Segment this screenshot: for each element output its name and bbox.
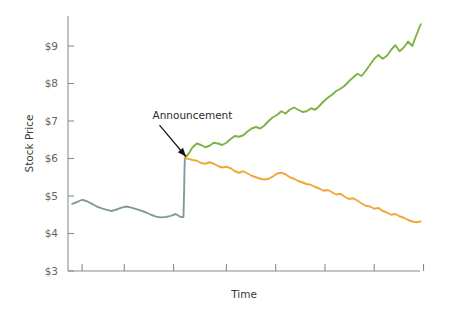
y-axis-title: Stock Price [23,114,35,172]
series-line-pre-announcement [72,158,185,218]
x-axis-title: Time [230,288,257,300]
y-tick-label: $9 [45,40,58,52]
announcement-annotation: Announcement [152,109,232,156]
y-axis-group: $3$4$5$6$7$8$9 [45,16,74,277]
y-tick-label: $5 [45,190,58,202]
series-line-positive-outcome [185,24,421,158]
y-tick-label: $8 [45,77,58,89]
annotation-label: Announcement [152,109,232,121]
data-series-group [72,24,420,222]
y-tick-label: $4 [45,227,59,239]
y-tick-label: $6 [45,152,59,164]
y-tick-label: $3 [45,265,58,277]
y-axis-ticks: $3$4$5$6$7$8$9 [45,40,74,277]
y-tick-label: $7 [45,115,58,127]
stock-price-chart: $3$4$5$6$7$8$9 Announcement Time Stock P… [0,0,470,332]
x-axis-group [68,264,424,271]
series-line-negative-outcome [185,158,421,223]
x-axis-ticks [82,264,423,271]
chart-canvas: $3$4$5$6$7$8$9 Announcement Time Stock P… [0,0,470,332]
